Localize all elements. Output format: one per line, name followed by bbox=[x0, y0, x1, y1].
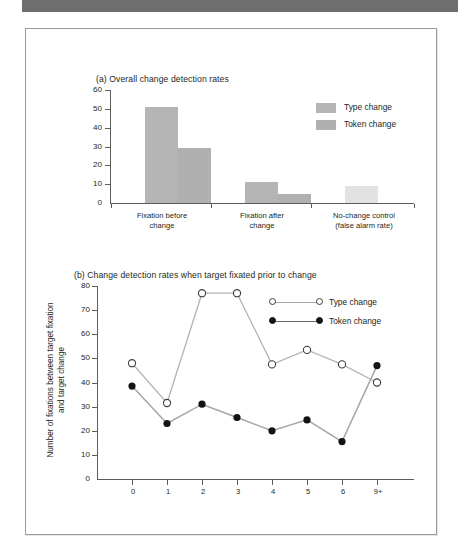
xlabel-line: change bbox=[121, 221, 203, 231]
panel-a-x-axis bbox=[110, 203, 414, 204]
legend-label-type-change: Type change bbox=[344, 102, 392, 112]
legend-swatch-type-change bbox=[316, 103, 336, 113]
panel-a-xtick bbox=[311, 204, 312, 208]
xlabel-line: (false alarm rate) bbox=[318, 221, 410, 231]
panel-a-ytick-label: 40 bbox=[82, 123, 102, 132]
panel-a-ytick-label: 30 bbox=[82, 142, 102, 151]
panel-a-ytick-label: 20 bbox=[82, 160, 102, 169]
figure-page: (a) Overall change detection rates 60 50… bbox=[25, 28, 437, 535]
bar-type-change-fixation-before bbox=[145, 107, 178, 203]
bar-token-change-fixation-before bbox=[178, 148, 211, 203]
legend-marker-filled-circle-token-change bbox=[269, 317, 276, 324]
panel-b-change-detection-when-fixated: (b) Change detection rates when target f… bbox=[26, 244, 438, 536]
panel-a-ytick bbox=[105, 109, 110, 110]
legend-marker-filled-circle-token-change-end bbox=[316, 317, 323, 324]
bar-type-change-no-change-control bbox=[345, 186, 378, 203]
legend-marker-open-circle-type-change-end bbox=[316, 298, 323, 305]
xlabel-line: change bbox=[221, 221, 303, 231]
legend-label-token-change: Token change bbox=[344, 119, 396, 129]
series-markers-type-change bbox=[128, 290, 380, 407]
panel-a-xtick bbox=[211, 204, 212, 208]
bar-type-change-fixation-after bbox=[245, 182, 278, 203]
panel-a-xtick bbox=[414, 204, 415, 208]
panel-a-xtick-label-no-change-control: No-change control (false alarm rate) bbox=[318, 211, 410, 230]
legend-label-type-change: Type change bbox=[329, 297, 377, 307]
xlabel-line: Fixation before bbox=[121, 211, 203, 221]
panel-a-xtick-label-fixation-after-change: Fixation after change bbox=[221, 211, 303, 230]
panel-a-ytick-label: 50 bbox=[82, 104, 102, 113]
panel-a-xtick bbox=[111, 204, 112, 208]
panel-a-ytick-label: 0 bbox=[82, 198, 102, 207]
bar-token-change-fixation-after bbox=[278, 194, 311, 203]
panel-a-overall-change-detection-rates: (a) Overall change detection rates 60 50… bbox=[26, 29, 438, 244]
panel-a-ytick bbox=[105, 128, 110, 129]
panel-a-ytick-label: 60 bbox=[82, 85, 102, 94]
legend-swatch-token-change bbox=[316, 120, 336, 130]
panel-a-ytick bbox=[105, 90, 110, 91]
panel-a-ytick bbox=[105, 165, 110, 166]
xlabel-line: No-change control bbox=[318, 211, 410, 221]
series-line-type-change bbox=[132, 293, 377, 403]
header-band bbox=[22, 0, 458, 12]
xlabel-line: Fixation after bbox=[221, 211, 303, 221]
legend-line-token-change bbox=[273, 321, 319, 322]
legend-label-token-change: Token change bbox=[329, 316, 381, 326]
panel-a-ytick-label: 10 bbox=[82, 179, 102, 188]
panel-b-plot bbox=[26, 244, 438, 504]
panel-a-xtick-label-fixation-before-change: Fixation before change bbox=[121, 211, 203, 230]
panel-a-title: (a) Overall change detection rates bbox=[96, 74, 229, 84]
panel-a-ytick bbox=[105, 147, 110, 148]
panel-a-ytick bbox=[105, 184, 110, 185]
legend-marker-open-circle-type-change bbox=[269, 298, 276, 305]
legend-line-type-change bbox=[273, 302, 319, 303]
